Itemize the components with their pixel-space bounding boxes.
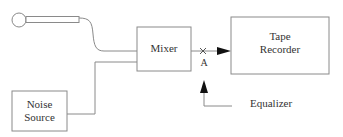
tape-recorder-label: Tape Recorder bbox=[231, 30, 329, 56]
point-a-label: A bbox=[198, 56, 210, 69]
noise-source-label-line1: Noise bbox=[12, 98, 67, 111]
mic-cable bbox=[79, 18, 137, 51]
tape-recorder-label-line1: Tape bbox=[231, 30, 329, 43]
noise-cable bbox=[67, 62, 137, 114]
tape-recorder-label-line2: Recorder bbox=[231, 43, 329, 56]
equalizer-arrowhead-icon bbox=[200, 80, 208, 93]
microphone-icon bbox=[12, 13, 79, 27]
mixer-label: Mixer bbox=[137, 42, 191, 55]
equalizer-label: Equalizer bbox=[250, 97, 292, 110]
noise-source-label-line2: Source bbox=[12, 111, 67, 124]
equalizer-line bbox=[204, 88, 232, 106]
output-arrowhead-icon bbox=[217, 47, 231, 55]
noise-source-label: Noise Source bbox=[12, 98, 67, 124]
